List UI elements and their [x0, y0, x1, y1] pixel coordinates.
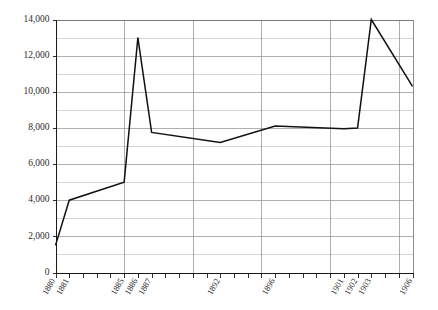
chart-canvas: 02,0004,0006,0008,00010,00012,00014,000 …	[0, 0, 438, 310]
line-chart-figure: 02,0004,0006,0008,00010,00012,00014,000 …	[0, 0, 438, 310]
y-tick-label: 12,000	[23, 50, 49, 60]
y-tick-label: 14,000	[23, 14, 49, 24]
y-tick-label: 0	[45, 267, 50, 277]
y-tick-label: 8,000	[28, 122, 50, 132]
y-tick-label: 4,000	[28, 194, 50, 204]
chart-background	[0, 0, 438, 310]
y-tick-label: 6,000	[28, 158, 50, 168]
y-tick-label: 10,000	[23, 86, 49, 96]
y-tick-label: 2,000	[28, 231, 50, 241]
